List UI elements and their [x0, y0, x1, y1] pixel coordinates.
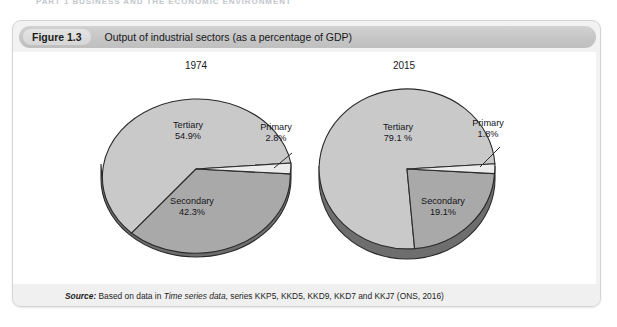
- chart-canvas: 1974: [78, 52, 596, 284]
- pie-2015-primary-name: Primary: [472, 118, 504, 128]
- source-publication-title: Time series data: [164, 291, 226, 301]
- pie-2015-secondary-value: 19.1%: [392, 207, 494, 218]
- pie-1974-label-tertiary: Tertiary 54.9%: [140, 120, 236, 142]
- figure-number-badge: Figure 1.3: [23, 29, 91, 45]
- figure-panel: Figure 1.3 Output of industrial sectors …: [12, 20, 601, 307]
- pie-1974-primary-name: Primary: [260, 122, 292, 132]
- pie-2015-secondary-name: Secondary: [421, 196, 465, 206]
- pie-1974-primary-value: 2.8%: [244, 133, 308, 144]
- figure-source-text: Source: Based on data in Time series dat…: [65, 291, 444, 301]
- pie-chart-1974: 1974: [96, 60, 296, 265]
- pie-1974-tertiary-name: Tertiary: [173, 120, 203, 130]
- pie-2015-tertiary-value: 79.1 %: [352, 133, 444, 144]
- pie-2015-label-secondary: Secondary 19.1%: [392, 196, 494, 218]
- chart-canvas-left-margin: [13, 52, 79, 284]
- pie-1974-label-primary: Primary 2.8%: [244, 122, 308, 144]
- pie-1974-graphic: [96, 74, 296, 264]
- pie-1974-label-secondary: Secondary 42.3%: [140, 196, 244, 218]
- source-after-italic: , series KKP5, KKD5, KKD9, KKD7 and KKJ7…: [226, 291, 444, 301]
- running-head: PART 1 BUSINESS AND THE ECONOMIC ENVIRON…: [36, 0, 456, 8]
- figure-source-band: Source: Based on data in Time series dat…: [13, 284, 601, 307]
- figure-page: PART 1 BUSINESS AND THE ECONOMIC ENVIRON…: [0, 0, 617, 327]
- figure-title: Output of industrial sectors (as a perce…: [105, 31, 352, 43]
- figure-caption-bar: Figure 1.3 Output of industrial sectors …: [19, 26, 596, 48]
- pie-2015-tertiary-name: Tertiary: [383, 122, 413, 132]
- pie-chart-2015: 2015: [314, 60, 524, 265]
- pie-2015-label-primary: Primary 1.8%: [456, 118, 520, 140]
- pie-2015-primary-value: 1.8%: [456, 129, 520, 140]
- pie-2015-graphic: [314, 74, 524, 269]
- source-label: Source:: [65, 291, 96, 301]
- pie-1974-tertiary-value: 54.9%: [140, 131, 236, 142]
- pie-1974-secondary-value: 42.3%: [140, 207, 244, 218]
- pie-2015-year-label: 2015: [314, 60, 494, 71]
- source-before-italic: Based on data in: [96, 291, 164, 301]
- pie-1974-secondary-name: Secondary: [170, 196, 214, 206]
- pie-1974-year-label: 1974: [96, 60, 296, 71]
- pie-2015-label-tertiary: Tertiary 79.1 %: [352, 122, 444, 144]
